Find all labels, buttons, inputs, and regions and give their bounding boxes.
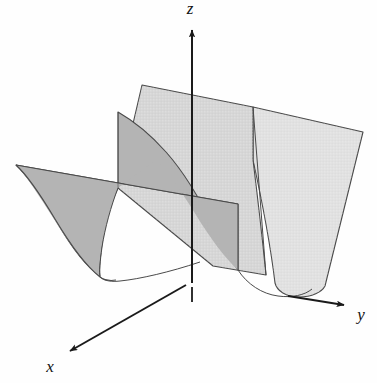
surface-plot-svg: z y x [0, 0, 377, 383]
y-axis-label: y [355, 305, 365, 324]
z-axis-label: z [186, 0, 194, 18]
x-axis-label: x [45, 357, 54, 376]
x-axis-line [70, 285, 186, 351]
figure-container: z y x [0, 0, 377, 383]
parabolic-cylinder-surface [16, 85, 363, 297]
surface-panel-right-far-texture [253, 107, 363, 297]
y-axis-line [288, 296, 344, 305]
